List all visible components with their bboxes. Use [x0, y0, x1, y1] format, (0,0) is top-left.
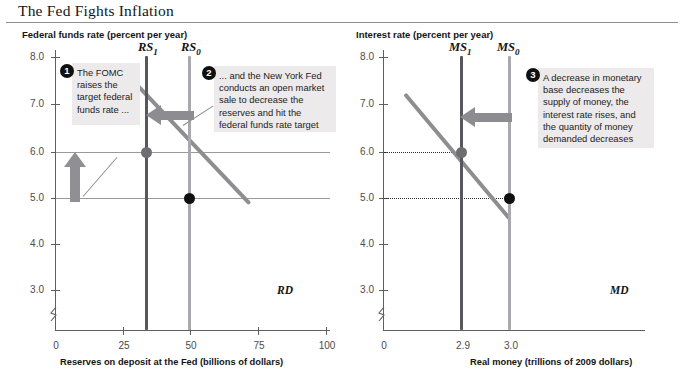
left-equilibrium-point-initial	[184, 193, 195, 204]
left-annotation-1-text: The FOMC raises the target federal funds…	[77, 67, 132, 115]
left-x-label-0: 0	[39, 340, 73, 351]
left-annotation-1-box: The FOMC raises the target federal funds…	[72, 63, 140, 125]
right-curve-label-ms0: MS0	[497, 40, 520, 57]
right-x-axis-title: Real money (trillions of 2009 dollars)	[470, 357, 632, 367]
right-annotation-3-box: A decrease in monetary base decreases th…	[538, 68, 654, 148]
left-guideline-6	[56, 152, 330, 153]
left-annotation-2-badge: 2	[202, 66, 216, 80]
left-equilibrium-point-new	[141, 147, 152, 158]
left-x-label-25: 25	[107, 340, 141, 351]
right-y-label-8: 8.0	[348, 51, 374, 62]
left-annotation-2-box: ... and the New York Fed conducts an ope…	[214, 66, 336, 132]
right-curve-label-md: MD	[610, 284, 629, 296]
right-y-tick-7	[379, 104, 388, 105]
left-x-label-100: 100	[310, 340, 344, 351]
left-y-label-4: 4.0	[18, 238, 44, 249]
right-equilibrium-point-new	[456, 147, 467, 158]
right-y-axis-title: Interest rate (percent per year)	[356, 29, 493, 40]
left-y-tick-3	[51, 290, 60, 291]
left-annotation-1-badge: 1	[60, 64, 74, 78]
right-y-label-3: 3.0	[348, 284, 374, 295]
left-y-label-7: 7.0	[18, 98, 44, 109]
right-y-axis	[383, 50, 384, 330]
left-curve-rs1	[145, 56, 148, 330]
right-annotation-3-text: A decrease in monetary base decreases th…	[543, 72, 642, 144]
right-curve-label-ms1: MS1	[449, 40, 472, 57]
left-panel-reserves-market: Federal funds rate (percent per year) 8.…	[0, 0, 348, 383]
left-y-tick-7	[51, 104, 60, 105]
right-x-axis	[383, 330, 645, 331]
left-x-tick-25	[123, 327, 124, 335]
right-annotation-3-badge: 3	[526, 68, 540, 82]
left-x-axis-title: Reserves on deposit at the Fed (billions…	[60, 357, 283, 367]
left-curve-label-rs1: RS1	[138, 40, 158, 57]
left-x-tick-100	[326, 327, 327, 335]
right-x-label-0: 0	[367, 340, 401, 351]
right-equilibrium-point-initial	[504, 193, 515, 204]
left-x-label-75: 75	[242, 340, 276, 351]
left-y-label-8: 8.0	[18, 51, 44, 62]
left-y-tick-4	[51, 244, 60, 245]
right-axis-break-icon	[375, 306, 387, 322]
left-y-label-5: 5.0	[18, 192, 44, 203]
left-axis-break-icon	[47, 306, 59, 322]
left-y-label-6: 6.0	[18, 146, 44, 157]
left-y-label-3: 3.0	[18, 284, 44, 295]
right-y-tick-8	[379, 57, 388, 58]
right-supply-shift-arrow	[458, 105, 512, 129]
right-curve-ms1	[460, 56, 463, 330]
right-y-label-7: 7.0	[348, 98, 374, 109]
left-annotation-2-text: ... and the New York Fed conducts an ope…	[219, 70, 324, 130]
left-x-axis	[55, 330, 330, 331]
left-x-tick-75	[258, 327, 259, 335]
right-y-label-5: 5.0	[348, 192, 374, 203]
figure-the-fed-fights-inflation: The Fed Fights Inflation Federal funds r…	[0, 0, 684, 383]
left-curve-label-rd: RD	[277, 284, 293, 296]
left-y-axis	[55, 50, 56, 330]
left-y-tick-8	[51, 57, 60, 58]
right-y-tick-3	[379, 290, 388, 291]
right-y-tick-4	[379, 244, 388, 245]
left-y-axis-title: Federal funds rate (percent per year)	[22, 29, 187, 40]
right-y-label-6: 6.0	[348, 146, 374, 157]
right-x-label-29: 2.9	[446, 340, 480, 351]
right-y-label-4: 4.0	[348, 238, 374, 249]
right-x-label-30: 3.0	[494, 340, 528, 351]
left-x-label-50: 50	[174, 340, 208, 351]
left-curve-label-rs0: RS0	[181, 40, 201, 57]
right-panel-money-market: Interest rate (percent per year) 8.0 7.0…	[348, 0, 684, 383]
